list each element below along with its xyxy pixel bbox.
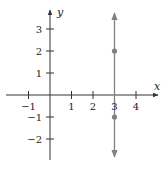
x-tick-label: 3	[111, 101, 117, 112]
y-axis-label: y	[56, 6, 64, 19]
y-tick-label: −1	[27, 112, 42, 123]
y-tick-label: −2	[27, 134, 42, 145]
data-point	[112, 114, 117, 119]
x-tick-label: 4	[133, 101, 139, 112]
x-tick-label: 2	[90, 101, 96, 112]
coordinate-plane: xy−11234321−1−2	[0, 0, 167, 169]
x-tick-label: 1	[68, 101, 74, 112]
y-tick-label: 2	[36, 46, 42, 57]
y-tick-label: 1	[36, 68, 42, 79]
x-tick-label: −1	[21, 101, 36, 112]
y-tick-label: 3	[36, 24, 42, 35]
data-point	[112, 48, 117, 53]
x-axis-label: x	[154, 80, 161, 93]
